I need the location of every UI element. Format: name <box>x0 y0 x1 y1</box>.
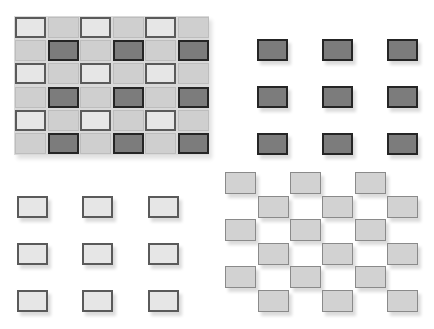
staggered-tile <box>322 243 353 265</box>
dark-tile <box>113 133 144 154</box>
medium-tile <box>113 110 144 131</box>
light-tile <box>17 290 48 312</box>
dark-tile <box>387 133 418 155</box>
medium-tile <box>15 133 46 154</box>
staggered-tile <box>387 290 418 312</box>
medium-tile <box>48 17 79 38</box>
light-tile <box>145 17 176 38</box>
staggered-tile <box>290 172 321 194</box>
dark-tile <box>178 40 209 61</box>
medium-tile <box>15 40 46 61</box>
light-tile <box>15 63 46 84</box>
dark-tile <box>322 39 353 61</box>
staggered-tile <box>258 243 289 265</box>
medium-tile <box>145 40 176 61</box>
staggered-tile <box>322 196 353 218</box>
light-tile <box>82 243 113 265</box>
staggered-tile <box>387 243 418 265</box>
dark-tile <box>48 87 79 108</box>
light-tile <box>148 243 179 265</box>
light-tile <box>80 17 111 38</box>
staggered-tile <box>387 196 418 218</box>
medium-tile <box>145 87 176 108</box>
medium-tile <box>113 17 144 38</box>
staggered-tile <box>355 219 386 241</box>
staggered-tile <box>258 290 289 312</box>
medium-tile <box>80 40 111 61</box>
staggered-tile <box>322 290 353 312</box>
dark-tile <box>257 133 288 155</box>
dark-tile <box>387 39 418 61</box>
medium-tile <box>80 133 111 154</box>
dark-tile <box>178 87 209 108</box>
light-tile <box>17 196 48 218</box>
light-tile <box>148 290 179 312</box>
light-tile <box>80 110 111 131</box>
medium-tile <box>48 63 79 84</box>
dark-tile <box>178 133 209 154</box>
dark-tile <box>113 87 144 108</box>
dark-tile <box>113 40 144 61</box>
light-tile <box>15 17 46 38</box>
light-tile <box>148 196 179 218</box>
staggered-tile <box>225 266 256 288</box>
medium-tile <box>113 63 144 84</box>
light-tile <box>82 196 113 218</box>
staggered-tile <box>355 172 386 194</box>
dark-tile <box>48 133 79 154</box>
medium-tile <box>145 133 176 154</box>
light-tile <box>80 63 111 84</box>
medium-tile <box>178 17 209 38</box>
staggered-tile <box>258 196 289 218</box>
staggered-tile <box>290 266 321 288</box>
medium-tile <box>178 110 209 131</box>
dark-tile <box>322 133 353 155</box>
staggered-tile <box>290 219 321 241</box>
light-tile <box>145 63 176 84</box>
light-tile <box>145 110 176 131</box>
dark-tile <box>48 40 79 61</box>
medium-tile <box>178 63 209 84</box>
dark-tile <box>257 39 288 61</box>
light-tile <box>82 290 113 312</box>
staggered-tile <box>355 266 386 288</box>
medium-tile <box>15 87 46 108</box>
medium-tile <box>48 110 79 131</box>
light-tile <box>15 110 46 131</box>
dark-tile <box>257 86 288 108</box>
staggered-tile <box>225 219 256 241</box>
dark-tile <box>387 86 418 108</box>
light-tile <box>17 243 48 265</box>
staggered-tile <box>225 172 256 194</box>
dark-tile <box>322 86 353 108</box>
medium-tile <box>80 87 111 108</box>
